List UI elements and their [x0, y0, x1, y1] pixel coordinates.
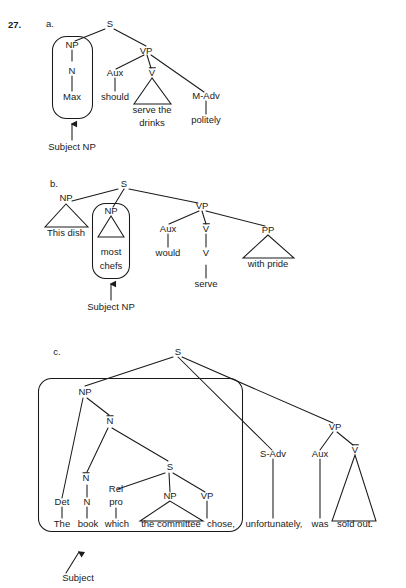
exercise-page: 27. a. b. c. S NP N Max VP Aux V M-Adv s… [0, 0, 406, 588]
tree-a-vbar-triangle [134, 78, 171, 104]
tree-b-edge-s-np-left [72, 189, 118, 201]
tree-c-node-vbar: V [352, 445, 358, 455]
tree-c-node-nbar-lower-text: N [83, 473, 90, 483]
tree-b-node-vbar-text: V [203, 224, 209, 234]
tree-a-word-serve-the: serve the [132, 105, 171, 115]
tree-b-np-inner-triangle [98, 216, 124, 237]
tree-c-node-pro: pro [109, 497, 123, 507]
tree-c-subject-box [39, 379, 243, 532]
tree-b-edge-s-vp [129, 189, 198, 203]
tree-c-edge-s-vp-inner [173, 473, 205, 492]
tree-b-node-vbar: V [203, 224, 209, 234]
tree-c-subject-arrow [66, 552, 79, 573]
tree-b-word-chefs: chefs [100, 261, 123, 271]
tree-b-node-vp: VP [196, 201, 209, 211]
tree-c-word-unfortunately: unfortunately, [246, 519, 303, 529]
tree-a-word-should: should [101, 92, 129, 102]
tree-c-node-s-root: S [175, 347, 181, 357]
tree-b-word-most: most [101, 247, 122, 257]
tree-b-word-serve: serve [194, 279, 217, 289]
tree-b-edge-vp-pp [206, 211, 265, 226]
tree-c-node-vp: VP [329, 422, 342, 432]
tree-b-edge-vp-aux [169, 211, 199, 224]
tree-a-word-max: Max [63, 92, 81, 102]
tree-c-word-was: was [312, 519, 329, 529]
tree-c-edge-s-vp [182, 357, 333, 423]
tree-a-node-vbar-text: V [149, 68, 155, 78]
tree-a-edge-s-np [75, 29, 105, 41]
tree-c-word-book: book [78, 519, 99, 529]
part-label-b: b. [50, 179, 58, 189]
tree-a-node-aux: Aux [107, 68, 123, 78]
tree-b-np-left-triangle [45, 204, 88, 227]
tree-c-node-nbar-upper-text: N [107, 416, 114, 426]
tree-c-word-chose: chose, [207, 519, 235, 529]
tree-b-node-aux: Aux [160, 224, 176, 234]
tree-c-node-rel: Rel [109, 484, 123, 494]
tree-c-node-n: N [84, 497, 91, 507]
tree-a-node-madv: M-Adv [192, 91, 219, 101]
tree-a-edge-s-vp [114, 29, 146, 46]
tree-a-edge-vp-madv [151, 55, 204, 92]
tree-c-node-nbar-upper: N [107, 416, 114, 426]
tree-a-node-vp: VP [140, 46, 153, 56]
tree-c-word-which: which [105, 519, 129, 529]
tree-c-node-vbar-text: V [352, 445, 358, 455]
tree-c-word-sold-out: sold out. [337, 519, 373, 529]
tree-c-edge-np-det [62, 398, 83, 498]
tree-a-node-n: N [69, 66, 76, 76]
tree-c-node-det: Det [55, 497, 70, 507]
tree-b-annotation-subject-np: Subject NP [87, 302, 135, 312]
tree-b-node-np-boxed: NP [104, 206, 117, 216]
tree-b-word-with-pride: with pride [248, 259, 289, 269]
tree-a-annotation-subject-np: Subject NP [48, 142, 96, 152]
tree-c-node-np: NP [78, 387, 91, 397]
tree-b-node-s: S [121, 179, 127, 189]
tree-a-node-s: S [107, 19, 113, 29]
tree-a-node-vbar: V [149, 68, 155, 78]
part-label-c: c. [53, 347, 60, 357]
tree-c-node-s-embedded: S [167, 462, 173, 472]
tree-c-edge-np-nbar [87, 398, 109, 415]
tree-c-edge-s-np-inner [169, 473, 170, 492]
tree-c-node-np-inner: NP [163, 491, 176, 501]
tree-c-annotation-subject: Subject [62, 573, 94, 583]
exercise-number: 27. [8, 19, 21, 30]
tree-c-edge-s-np [85, 357, 173, 386]
tree-c-vbar-triangle [332, 455, 376, 521]
tree-a-word-drinks: drinks [139, 118, 164, 128]
tree-c-edge-nbar-s [112, 428, 168, 461]
tree-a-word-politely: politely [191, 115, 221, 125]
tree-c-edge-s-sadv [178, 357, 272, 450]
tree-c-node-sadv: S-Adv [260, 449, 286, 459]
tree-b-node-pp: PP [262, 225, 275, 235]
tree-b-word-this-dish: This dish [47, 228, 85, 238]
tree-c-word-the: The [54, 519, 70, 529]
tree-b-node-v: V [203, 248, 209, 258]
tree-b-word-would: would [156, 248, 181, 258]
tree-c-node-aux: Aux [312, 449, 328, 459]
tree-c-word-the-committee: the committee [141, 519, 201, 529]
tree-a-node-np: NP [65, 40, 78, 50]
tree-b-pp-triangle [243, 235, 294, 258]
tree-c-edge-nbar-nbar [87, 428, 108, 472]
tree-b-node-np-left: NP [59, 193, 72, 203]
tree-c-edge-s-rel [118, 473, 165, 489]
tree-c-node-vp-inner: VP [201, 491, 214, 501]
part-label-a: a. [46, 19, 54, 29]
tree-c-node-nbar-lower: N [83, 473, 90, 483]
